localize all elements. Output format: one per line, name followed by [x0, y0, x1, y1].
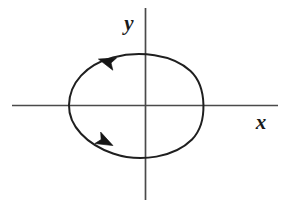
x-axis-label: x	[255, 110, 267, 134]
curve-diagram-svg: y x	[0, 0, 295, 208]
figure-canvas: y x	[0, 0, 295, 208]
lower-direction-arrow	[95, 132, 116, 151]
y-axis-label: y	[121, 11, 134, 35]
